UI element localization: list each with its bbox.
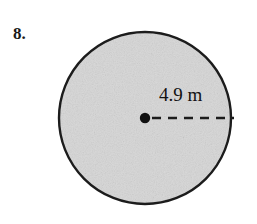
figure-page: 8.	[0, 0, 257, 224]
center-dot-icon	[140, 113, 150, 123]
dimension-label: 4.9 m	[159, 83, 202, 106]
circle-figure	[0, 0, 257, 224]
